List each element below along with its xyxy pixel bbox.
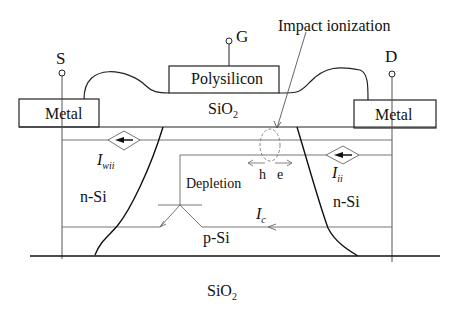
oxide-curve-left	[84, 72, 169, 99]
gate-terminal-label: G	[236, 28, 248, 45]
impact-ionization-region	[260, 129, 280, 161]
source-terminal-label: S	[56, 50, 65, 67]
polysilicon-label: Polysilicon	[191, 71, 263, 87]
current-ii-label: Iii	[332, 165, 343, 184]
current-c-label: Ic	[256, 206, 266, 225]
body-psi-label: p-Si	[203, 230, 230, 246]
gate-oxide-label: SiO2	[208, 101, 238, 120]
drain-terminal-label: D	[385, 48, 397, 65]
buried-oxide-label: SiO2	[207, 283, 237, 302]
hole-label: h	[259, 168, 266, 182]
oxide-curve-right	[279, 68, 368, 100]
current-wii-label: Iwii	[97, 152, 115, 171]
depletion-label: Depletion	[186, 177, 241, 191]
electron-label: e	[277, 168, 283, 182]
drain-nsi-label: n-Si	[333, 194, 360, 210]
drain-junction	[297, 127, 358, 256]
drain-metal-label: Metal	[375, 107, 412, 123]
impact-ionization-label: Impact ionization	[278, 18, 390, 34]
mosfet-diagram: S G D Impact ionization Polysilicon SiO2…	[0, 0, 456, 312]
source-nsi-label: n-Si	[80, 189, 107, 205]
source-metal-label: Metal	[45, 106, 82, 122]
